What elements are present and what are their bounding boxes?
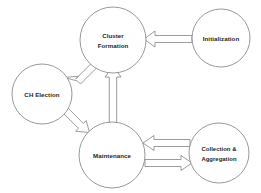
node-collection-aggregation-label-line1: Collection & (202, 146, 238, 152)
node-cluster-formation-label-line2: Formation (98, 42, 129, 49)
node-cluster-formation-circle (80, 7, 146, 73)
node-ch-election[interactable]: CH Election (12, 64, 72, 124)
node-initialization-label: Initialization (203, 35, 240, 42)
node-ch-election-label: CH Election (24, 91, 59, 98)
edge-collection-aggregation-to-maintenance (143, 136, 190, 151)
diagram-canvas: Cluster Formation Initialization CH Elec… (0, 0, 261, 193)
node-maintenance[interactable]: Maintenance (79, 122, 145, 188)
node-collection-aggregation-circle (189, 123, 249, 183)
node-maintenance-label: Maintenance (93, 152, 132, 159)
node-initialization[interactable]: Initialization (192, 9, 250, 67)
edge-maintenance-to-cluster-formation (105, 66, 121, 124)
node-cluster-formation[interactable]: Cluster Formation (80, 7, 146, 73)
node-collection-aggregation-label-line2: Aggregation (201, 156, 237, 162)
node-cluster-formation-label-line1: Cluster (102, 32, 124, 39)
edge-initialization-to-cluster-formation (144, 31, 192, 47)
flow-diagram: Cluster Formation Initialization CH Elec… (0, 0, 261, 193)
edge-maintenance-to-collection-aggregation (145, 156, 192, 171)
node-collection-aggregation[interactable]: Collection & Aggregation (189, 123, 249, 183)
